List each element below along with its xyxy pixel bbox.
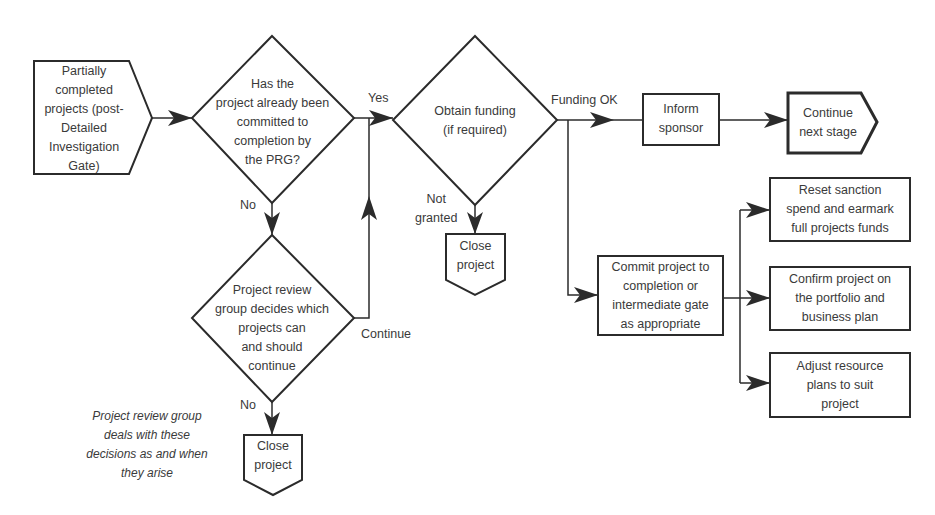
edge-label-not-granted: Not granted — [415, 190, 457, 228]
annotation-note: Project review group deals with these de… — [72, 407, 222, 483]
continue-next-stage-label: Continue next stage — [788, 104, 868, 142]
confirm-project-label: Confirm project on the portfolio and bus… — [770, 270, 910, 327]
edge-label-continue: Continue — [361, 325, 411, 344]
decision-funding-label: Obtain funding (if required) — [410, 102, 540, 140]
decision-committed-label: Has the project already been committed t… — [200, 75, 345, 170]
edge-label-funding-ok: Funding OK — [551, 91, 618, 110]
close-project-review-label: Close project — [244, 437, 302, 475]
reset-sanction-label: Reset sanction spend and earmark full pr… — [770, 181, 910, 238]
connector-continue — [354, 118, 369, 318]
connector-to-commit — [568, 120, 598, 295]
edge-label-no-committed: No — [240, 196, 256, 215]
adjust-resource-label: Adjust resource plans to suit project — [770, 357, 910, 414]
edge-label-yes: Yes — [368, 89, 388, 108]
close-project-funding-label: Close project — [446, 237, 505, 275]
start-node-label: Partially completed projects (post- Deta… — [34, 62, 134, 176]
inform-sponsor-label: Inform sponsor — [643, 100, 719, 138]
commit-project-label: Commit project to completion or intermed… — [598, 258, 723, 334]
decision-review-label: Project review group decides which proje… — [198, 281, 346, 376]
edge-label-no-review: No — [240, 396, 256, 415]
